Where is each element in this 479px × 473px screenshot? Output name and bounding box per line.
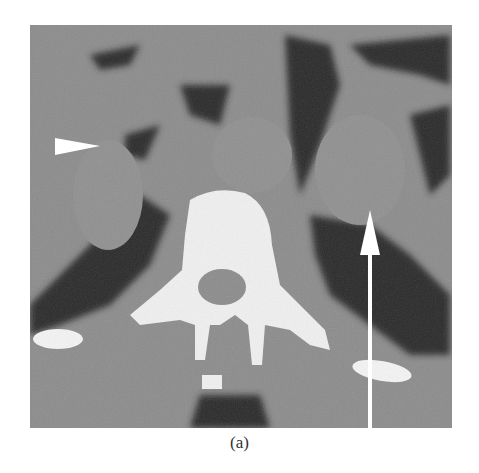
ct-scan-image [30, 25, 452, 428]
figure-caption: (a) [0, 433, 479, 453]
ct-scan-graphic [30, 25, 452, 428]
arrow-shaft [368, 253, 372, 428]
